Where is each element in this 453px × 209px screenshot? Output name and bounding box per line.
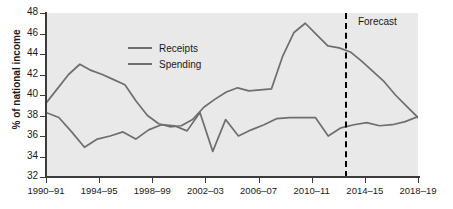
series-canvas bbox=[46, 13, 418, 177]
x-tick-mark bbox=[152, 178, 153, 183]
x-tick-mark bbox=[259, 178, 260, 183]
x-tick-label: 2014–15 bbox=[335, 185, 395, 196]
x-tick-label: 2006–07 bbox=[229, 185, 289, 196]
chart-legend: Receipts Spending bbox=[128, 40, 201, 72]
y-tick-label: 36 bbox=[4, 129, 38, 140]
y-tick-mark bbox=[40, 75, 45, 76]
x-tick-label: 1998–99 bbox=[122, 185, 182, 196]
x-tick-label: 2010–11 bbox=[282, 185, 342, 196]
plot-area bbox=[46, 13, 418, 177]
x-tick-mark bbox=[418, 178, 419, 183]
y-tick-mark bbox=[40, 95, 45, 96]
x-axis-line bbox=[45, 176, 420, 178]
y-tick-label: 34 bbox=[4, 150, 38, 161]
y-tick-mark bbox=[40, 54, 45, 55]
y-axis-line bbox=[45, 12, 47, 178]
legend-swatch-icon bbox=[128, 63, 152, 65]
legend-item-receipts: Receipts bbox=[128, 40, 201, 56]
forecast-divider-line bbox=[345, 13, 347, 177]
y-tick-label: 46 bbox=[4, 27, 38, 38]
y-tick-mark bbox=[40, 34, 45, 35]
y-tick-mark bbox=[40, 157, 45, 158]
y-tick-mark bbox=[40, 116, 45, 117]
y-tick-label: 44 bbox=[4, 47, 38, 58]
chart-figure: % of national income Forecast 3234363840… bbox=[0, 0, 453, 209]
legend-swatch-icon bbox=[128, 47, 152, 49]
forecast-label: Forecast bbox=[358, 16, 397, 27]
line-receipts bbox=[46, 112, 418, 151]
x-tick-mark bbox=[99, 178, 100, 183]
line-spending bbox=[46, 23, 418, 127]
y-tick-mark bbox=[40, 136, 45, 137]
x-tick-mark bbox=[365, 178, 366, 183]
y-tick-label: 40 bbox=[4, 88, 38, 99]
legend-label: Spending bbox=[159, 59, 201, 70]
legend-item-spending: Spending bbox=[128, 56, 201, 72]
y-tick-mark bbox=[40, 177, 45, 178]
x-tick-label: 1990–91 bbox=[16, 185, 76, 196]
y-tick-label: 38 bbox=[4, 109, 38, 120]
x-tick-label: 2002–03 bbox=[175, 185, 235, 196]
x-tick-mark bbox=[312, 178, 313, 183]
y-tick-label: 48 bbox=[4, 6, 38, 17]
x-tick-mark bbox=[46, 178, 47, 183]
y-tick-mark bbox=[40, 13, 45, 14]
y-tick-label: 42 bbox=[4, 68, 38, 79]
x-tick-label: 2018–19 bbox=[388, 185, 448, 196]
x-tick-mark bbox=[205, 178, 206, 183]
legend-label: Receipts bbox=[159, 43, 198, 54]
x-tick-label: 1994–95 bbox=[69, 185, 129, 196]
y-tick-label: 32 bbox=[4, 170, 38, 181]
